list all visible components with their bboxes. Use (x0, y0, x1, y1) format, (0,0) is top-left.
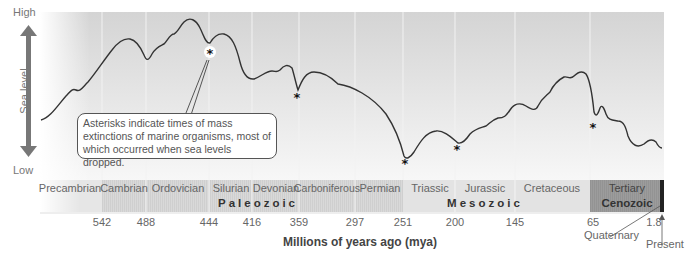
period-label: Devonian (253, 182, 299, 196)
era-label: Paleozoic (218, 197, 298, 209)
x-tick: 65 (587, 216, 599, 228)
y-low-label: Low (13, 164, 33, 176)
extinction-marker-251: * (402, 156, 409, 171)
period-label: Silurian (213, 182, 250, 196)
x-tick: 359 (290, 216, 308, 228)
x-tick: 1.8 (646, 216, 661, 228)
x-axis-title: Millions of years ago (mya) (283, 235, 437, 249)
x-tick: 200 (446, 216, 464, 228)
extinction-callout: Asterisks indicate times of mass extinct… (77, 113, 277, 159)
era-label: Mesozoic (447, 197, 523, 209)
band-quaternary (660, 180, 664, 212)
quaternary-label: Quaternary (584, 229, 639, 241)
period-label: Ordovician (152, 182, 205, 196)
x-tick: 297 (346, 216, 364, 228)
extinction-marker-200: * (454, 142, 461, 157)
y-high-label: High (13, 6, 36, 18)
x-tick: 542 (93, 216, 111, 228)
y-axis-title: Sea level (18, 61, 30, 121)
period-label: Jurassic (465, 182, 505, 196)
extinction-marker-65: * (590, 120, 597, 135)
era-label: Cenozoic (601, 197, 652, 209)
present-label: Present (646, 238, 684, 250)
period-label: Precambrian (39, 182, 101, 196)
period-label: Cambrian (100, 182, 148, 196)
x-tick: 251 (394, 216, 412, 228)
extinction-marker-359: * (294, 90, 301, 105)
x-tick: 145 (506, 216, 524, 228)
extinction-marker-444: * (207, 46, 214, 61)
period-label: Triassic (411, 182, 448, 196)
x-tick: 416 (243, 216, 261, 228)
period-label: Carboniferous (294, 182, 360, 196)
period-label: Tertiary (609, 182, 645, 196)
period-label: Permian (360, 182, 401, 196)
x-tick: 488 (137, 216, 155, 228)
period-label: Cretaceous (524, 182, 580, 196)
x-tick: 444 (200, 216, 218, 228)
